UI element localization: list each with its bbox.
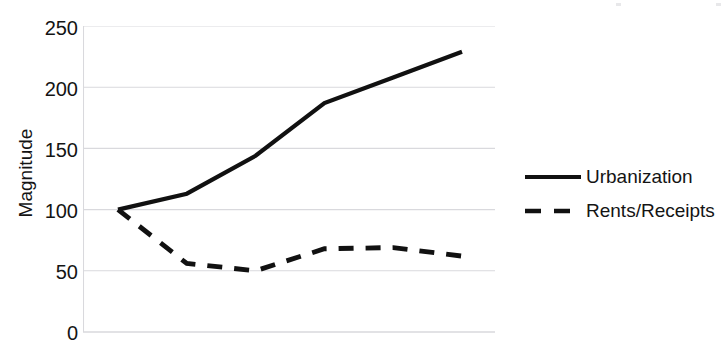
plot-area (83, 26, 495, 332)
legend-swatch-dashed-icon (524, 202, 582, 220)
y-tick-label: 50 (16, 262, 78, 282)
y-tick-label: 250 (16, 18, 78, 38)
gridlines (83, 26, 495, 332)
plot-svg (83, 26, 495, 336)
series-line-urbanization (118, 52, 462, 210)
series-lines (118, 52, 462, 271)
chart-legend: Urbanization Rents/Receipts (524, 160, 728, 228)
legend-label: Urbanization (582, 166, 693, 188)
y-axis-tick-labels: 250 200 150 100 50 0 (10, 0, 78, 345)
legend-item-rents-receipts: Rents/Receipts (524, 194, 728, 228)
series-line-rents-receipts (118, 210, 462, 271)
y-tick-label: 200 (16, 79, 78, 99)
y-tick-label: 150 (16, 140, 78, 160)
legend-label: Rents/Receipts (582, 200, 715, 222)
legend-swatch-solid-icon (524, 168, 582, 186)
y-tick-label: 0 (16, 323, 78, 343)
legend-item-urbanization: Urbanization (524, 160, 728, 194)
y-tick-label: 100 (16, 201, 78, 221)
line-chart: Magnitude 250 200 150 100 50 0 Urbanizat… (0, 0, 728, 345)
scan-artifact (616, 3, 621, 6)
scan-artifact (716, 3, 721, 6)
